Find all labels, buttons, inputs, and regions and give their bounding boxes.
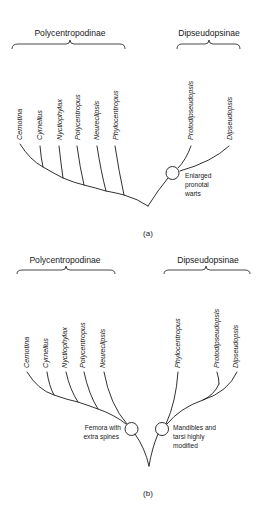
group-label-dipseudopsinae-b: Dipseudopsinae: [177, 255, 239, 265]
branch-main-left-a: [20, 144, 148, 206]
taxon-label-polycentropus-b: Polycentropus: [78, 322, 87, 368]
brace-polycentropodinae-a: [12, 40, 125, 49]
taxon-label-dipseudopsis-a: Dipseudopsis: [225, 96, 234, 140]
branch-protodipseudopsis-b: [217, 372, 219, 384]
right-node-annotation-b-line3: modified: [173, 442, 198, 449]
node-circle-enlarged-pronotal-warts: [166, 167, 179, 180]
taxon-label-neureclipsis-b: Neureclipsis: [98, 328, 107, 368]
brace-polycentropodinae-b: [17, 266, 115, 274]
branch-cyrnellus-b: [47, 372, 54, 395]
taxon-label-protodipseudopsis-a: Protodipseudopsis: [186, 80, 195, 140]
left-node-annotation-b-line2: extra spines: [83, 433, 119, 441]
taxon-label-protodipseudopsis-b: Protodipseudopsis: [212, 308, 221, 368]
branch-right-node-to-root-b: [149, 434, 158, 466]
right-node-annotation-b-line1: Mandibles and: [173, 424, 216, 431]
branch-nyctiophylax-b: [66, 372, 78, 402]
node-circle-femora-extra-spines: [125, 423, 138, 436]
branch-neureclipsis-a: [97, 146, 106, 191]
taxon-label-dipseudopsis-b: Dipseudopsis: [231, 324, 240, 368]
node-circle-mandibles-tarsi-modified: [156, 423, 169, 436]
branch-polycentropus-b: [84, 372, 98, 409]
phylogeny-figure: Polycentropodinae Dipseudopsinae Cernoti…: [0, 0, 264, 520]
branch-dipseudopsis-a: [180, 146, 229, 171]
taxon-label-phylocentropus-a: Phylocentropus: [111, 90, 120, 140]
branch-phylocentropus-a: [115, 146, 124, 195]
node-annotation-a-line3: warts: [184, 190, 201, 197]
taxon-label-cernotina-a: Cernotina: [15, 109, 24, 140]
branch-phylocentropus-b: [166, 372, 178, 424]
group-label-dipseudopsinae-a: Dipseudopsinae: [178, 28, 240, 38]
taxon-label-cyrnellus-a: Cyrnellus: [35, 110, 44, 140]
caption-b: (b): [143, 489, 153, 498]
branch-dipseudopsis-b: [203, 372, 237, 400]
branch-main-right-b: [167, 384, 219, 424]
taxon-label-neureclipsis-a: Neureclipsis: [92, 100, 101, 140]
right-node-annotation-b-line2: tarsi highly: [173, 433, 205, 441]
taxon-label-cernotina-b: Cernotina: [22, 337, 31, 368]
cladogram-a: Polycentropodinae Dipseudopsinae Cernoti…: [12, 28, 240, 238]
group-label-polycentropodinae-a: Polycentropodinae: [34, 28, 105, 38]
node-annotation-a-line2: pronotal: [185, 181, 209, 189]
caption-a: (a): [143, 229, 153, 238]
branch-nyctiophylax-a: [59, 146, 63, 178]
brace-dipseudopsinae-a: [177, 40, 240, 49]
branch-neureclipsis-b: [104, 372, 127, 424]
taxon-label-nyctiophylax-b: Nyctiophylax: [60, 327, 69, 368]
brace-dipseudopsinae-b: [164, 266, 250, 274]
group-label-polycentropodinae-b: Polycentropodinae: [29, 255, 100, 265]
taxon-label-phylocentropus-b: Phylocentropus: [173, 318, 182, 368]
branch-protodipseudopsis-a: [178, 146, 191, 168]
taxon-label-nyctiophylax-a: Nyctiophylax: [55, 99, 64, 140]
taxon-label-cyrnellus-b: Cyrnellus: [41, 338, 50, 368]
branch-left-node-to-root-b: [135, 434, 149, 466]
node-annotation-a-line1: Enlarged: [185, 172, 212, 180]
cladogram-b: Polycentropodinae Dipseudopsinae Cernoti…: [17, 255, 250, 498]
branch-cyrnellus-a: [40, 146, 43, 167]
left-node-annotation-b-line1: Femora with: [85, 424, 122, 431]
branch-polycentropus-a: [77, 146, 84, 185]
branch-root-to-node-a: [148, 178, 168, 206]
taxon-label-polycentropus-a: Polycentropus: [73, 94, 82, 140]
